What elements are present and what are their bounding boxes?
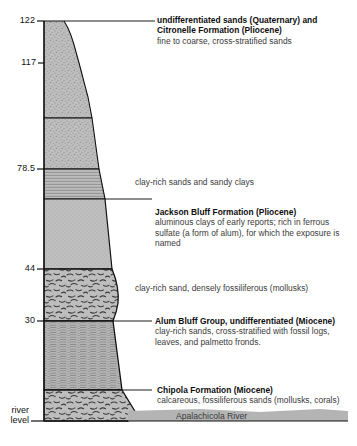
annotation-desc-alum-bluff: clay-rich sands, cross-stratified with f…: [155, 326, 357, 347]
annotation-desc-clay-rich-sands: clay-rich sands and sandy clays: [135, 177, 350, 187]
annotation-clay-rich-sand-fossiliferous: clay-rich sand, densely fossiliferous (m…: [135, 283, 353, 293]
unit-clay-rich-sands-sandy-clays: [44, 169, 105, 199]
axis-label-122: 122: [4, 15, 35, 25]
axis-label-30: 30: [4, 315, 35, 325]
unit-jackson-bluff: [44, 199, 112, 269]
annotation-title-quaternary: undifferentiated sands (Quaternary) and: [157, 15, 355, 25]
annotation-desc-fossiliferous: clay-rich sand, densely fossiliferous (m…: [135, 283, 353, 293]
annotation-title-jackson-bluff: Jackson Bluff Formation (Pliocene): [155, 207, 355, 217]
unit-quaternary-lower: [44, 118, 99, 169]
annotation-quaternary-citronelle: undifferentiated sands (Quaternary) and …: [157, 15, 355, 46]
axis-ticks: [31, 21, 44, 421]
annotation-alum-bluff-group: Alum Bluff Group, undifferentiated (Mioc…: [155, 316, 357, 347]
annotation-jackson-bluff: Jackson Bluff Formation (Pliocene) alumi…: [155, 207, 355, 249]
axis-label-117: 117: [4, 57, 36, 67]
unit-alum-bluff-group: [44, 321, 122, 390]
annotation-desc-jackson-bluff: aluminous clays of early reports; rich i…: [155, 217, 355, 248]
annotation-title-chipola: Chipola Formation (Miocene): [157, 385, 357, 395]
annotation-chipola: Chipola Formation (Miocene) calcareous, …: [157, 385, 357, 406]
annotation-clay-rich-sands-sandy-clays: clay-rich sands and sandy clays: [135, 177, 350, 187]
unit-clay-rich-sand-fossiliferous: [44, 269, 118, 321]
unit-chipola: [44, 390, 136, 421]
river-level-label-line2: level: [0, 415, 29, 426]
river-label: Apalachicola River: [176, 411, 247, 421]
annotation-title-citronelle: Citronelle Formation (Pliocene): [157, 25, 355, 35]
annotation-desc-chipola: calcareous, fossiliferous sands (mollusk…: [157, 395, 357, 405]
stratigraphic-column-figure: 122 117 78.5 44 30 river level undiffere…: [0, 0, 357, 446]
unit-quaternary-citronelle: [44, 21, 92, 118]
axis-label-44: 44: [4, 263, 35, 273]
axis-label-78-5: 78.5: [2, 163, 35, 173]
annotation-desc-quaternary: fine to coarse, cross-stratified sands: [157, 36, 355, 46]
river-level-label-line1: river: [0, 405, 29, 416]
annotation-title-alum-bluff: Alum Bluff Group, undifferentiated (Mioc…: [155, 316, 357, 326]
